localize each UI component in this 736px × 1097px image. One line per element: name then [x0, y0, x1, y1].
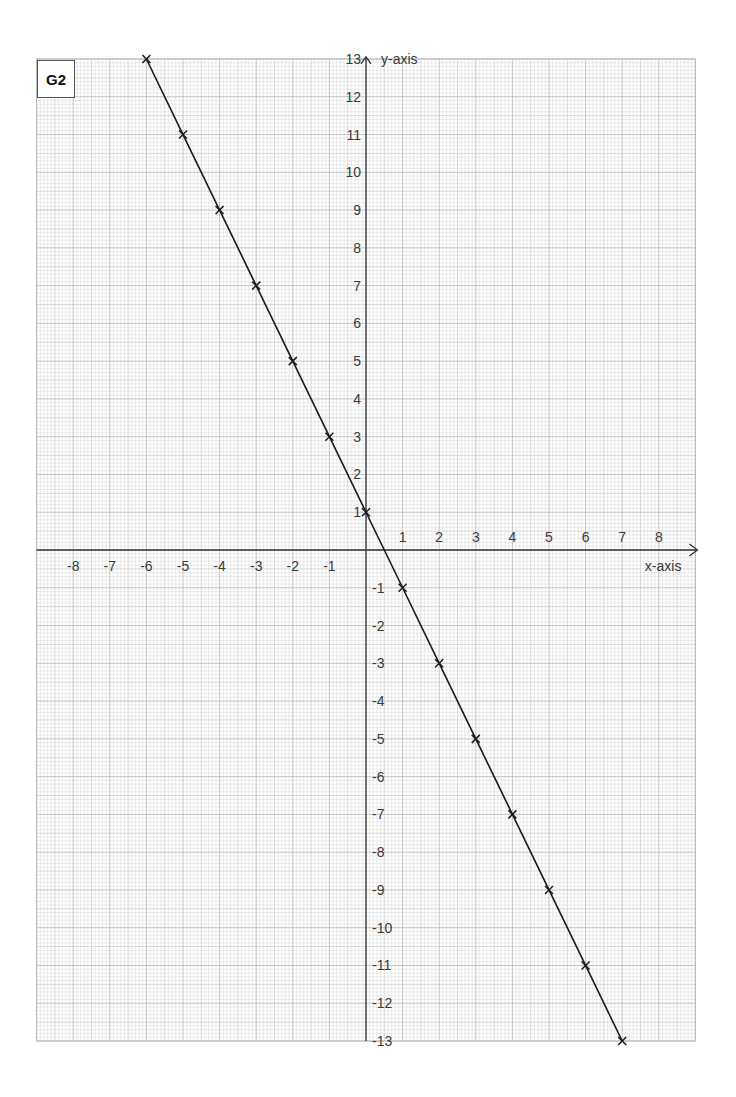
x-tick-label: -2	[287, 558, 300, 574]
x-tick-label: 4	[509, 529, 517, 545]
y-tick-label: 10	[345, 164, 361, 180]
y-tick-label: 2	[353, 466, 361, 482]
y-tick-label: 5	[353, 353, 361, 369]
y-tick-label: 1	[353, 504, 361, 520]
x-tick-label: -3	[250, 558, 263, 574]
y-tick-label: 6	[353, 315, 361, 331]
x-tick-label: -5	[177, 558, 190, 574]
figure-tag-label: G2	[46, 71, 66, 88]
y-tick-label: 3	[353, 429, 361, 445]
y-tick-label: -11	[372, 957, 391, 973]
x-tick-label: -6	[140, 558, 153, 574]
y-tick-label: -13	[372, 1033, 392, 1049]
y-tick-label: 9	[353, 202, 361, 218]
y-tick-label: -7	[372, 806, 385, 822]
x-tick-label: 1	[399, 529, 407, 545]
y-tick-label: 7	[353, 278, 361, 294]
graph-paper-chart: -8-7-6-5-4-3-2-112345678 131211109876543…	[0, 0, 736, 1097]
y-tick-label: 8	[353, 240, 361, 256]
y-tick-label: -9	[372, 882, 385, 898]
x-tick-label: -1	[323, 558, 336, 574]
y-tick-label: -4	[372, 693, 385, 709]
x-tick-label: -4	[213, 558, 226, 574]
y-tick-label: -2	[372, 618, 385, 634]
y-tick-label: -10	[372, 920, 392, 936]
y-tick-label: -1	[372, 580, 385, 596]
x-tick-label: 8	[655, 529, 663, 545]
y-tick-label: -6	[372, 769, 385, 785]
x-axis-label: x-axis	[645, 558, 682, 574]
y-tick-label: 4	[353, 391, 361, 407]
y-tick-label: 12	[345, 89, 361, 105]
y-tick-label: -8	[372, 844, 385, 860]
y-tick-label: -12	[372, 995, 392, 1011]
y-axis-label: y-axis	[381, 51, 418, 67]
x-tick-label: -7	[104, 558, 117, 574]
x-tick-label: 6	[582, 529, 590, 545]
x-tick-label: -8	[67, 558, 80, 574]
y-tick-label: -5	[372, 731, 385, 747]
y-tick-label: -3	[372, 655, 385, 671]
x-tick-label: 5	[545, 529, 553, 545]
y-tick-label: 13	[345, 51, 361, 67]
figure-tag-box: G2	[37, 60, 75, 98]
y-tick-label: 11	[346, 127, 361, 143]
x-tick-label: 2	[435, 529, 443, 545]
x-tick-labels: -8-7-6-5-4-3-2-112345678	[67, 529, 663, 574]
x-tick-label: 7	[618, 529, 626, 545]
x-tick-label: 3	[472, 529, 480, 545]
